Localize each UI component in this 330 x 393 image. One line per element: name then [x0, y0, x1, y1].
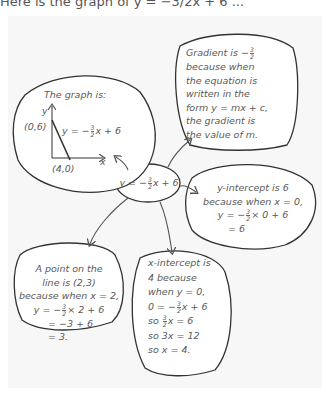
graph-title: The graph is:	[44, 88, 106, 102]
graph-equation: y = −32x + 6	[62, 124, 121, 138]
arrow-to-gradient	[168, 140, 190, 167]
center-equation: y = −32x + 6	[118, 176, 180, 190]
yint-text: y-intercept is 6 because when x = 0, y =…	[190, 181, 316, 236]
y-axis-label: y	[42, 104, 48, 118]
xint-text: x-intercept is 4 because when y = 0, 0 =…	[148, 256, 228, 358]
gradient-text: Gradient is −32 because when the equatio…	[186, 46, 294, 141]
arrow-to-point	[90, 198, 128, 244]
point-text: A point on the line is (2,3) because whe…	[14, 262, 124, 344]
x-axis-label: x	[100, 155, 106, 169]
arrow-to-xint	[160, 202, 172, 252]
point-y-intercept: (0,6)	[24, 120, 47, 134]
point-x-intercept: (4,0)	[52, 162, 75, 176]
